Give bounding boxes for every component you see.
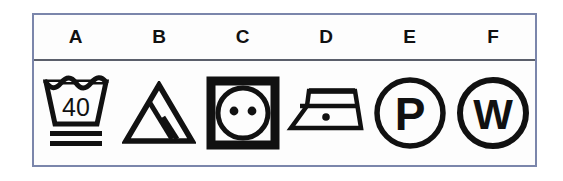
tumble-dry-two-dots-icon	[206, 76, 280, 150]
wash-bar-1	[50, 131, 102, 136]
wet-clean-letter: W	[473, 91, 513, 138]
column-header-e: E	[368, 15, 452, 59]
care-symbols-table: A B C D E F 40	[32, 13, 537, 167]
dry-dot-1	[229, 107, 238, 116]
column-header-d: D	[285, 15, 369, 59]
wet-clean-w-icon: W	[455, 75, 531, 151]
wash-tub-40-icon: 40	[40, 72, 112, 154]
table-symbol-row: 40	[34, 61, 535, 165]
table-header-row: A B C D E F	[34, 15, 535, 61]
dry-dot-2	[247, 107, 256, 116]
bleach-triangle-lines-icon	[122, 81, 196, 145]
column-header-label: F	[487, 26, 499, 48]
column-header-label: A	[69, 26, 83, 48]
iron-dot-1	[322, 113, 330, 121]
wash-bar-2	[50, 141, 102, 146]
column-header-label: D	[319, 26, 333, 48]
symbol-cell-c	[201, 61, 285, 165]
column-header-c: C	[201, 15, 285, 59]
column-header-b: B	[118, 15, 202, 59]
symbol-cell-d	[285, 61, 369, 165]
column-header-label: B	[152, 26, 166, 48]
dry-clean-letter: P	[394, 88, 425, 140]
column-header-label: E	[403, 26, 416, 48]
dry-clean-p-icon: P	[372, 75, 448, 151]
symbol-cell-a: 40	[34, 61, 118, 165]
symbol-cell-e: P	[368, 61, 452, 165]
column-header-label: C	[236, 26, 250, 48]
symbol-cell-f: W	[452, 61, 536, 165]
iron-one-dot-icon	[285, 82, 367, 144]
wash-temperature-label: 40	[62, 93, 90, 121]
column-header-f: F	[452, 15, 536, 59]
symbol-cell-b	[118, 61, 202, 165]
column-header-a: A	[34, 15, 118, 59]
